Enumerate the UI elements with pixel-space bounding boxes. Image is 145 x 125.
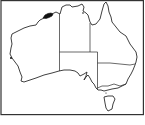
coastal-marker <box>10 57 12 59</box>
mainland-outline <box>10 2 137 91</box>
australia-map <box>0 0 145 125</box>
island-marker <box>105 92 106 93</box>
coastal-marker <box>82 12 84 14</box>
tasmania-outline <box>104 96 115 111</box>
map-canvas <box>0 0 145 125</box>
